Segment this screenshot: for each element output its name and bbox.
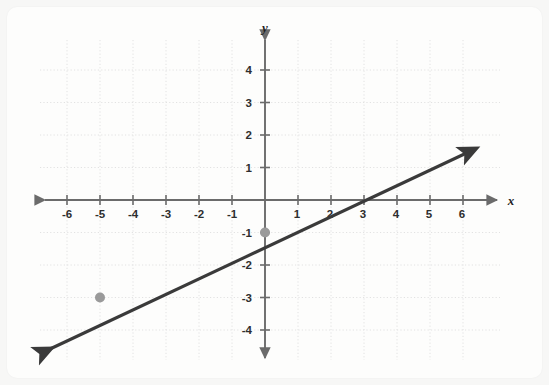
y-tick-label: 2	[246, 129, 252, 141]
y-tick-label: -3	[242, 292, 252, 304]
graph-svg: -6 -5 -4 -3 -2 -1 1 2 3 4 5 6 4 3 2 1 -1…	[0, 0, 549, 385]
x-tick-label: 4	[393, 208, 400, 220]
y-tick-label: 3	[246, 97, 252, 109]
coordinate-plane: -6 -5 -4 -3 -2 -1 1 2 3 4 5 6 4 3 2 1 -1…	[0, 0, 549, 385]
data-point-marker	[260, 228, 270, 238]
y-tick-label: -4	[242, 324, 253, 336]
x-tick-labels: -6 -5 -4 -3 -2 -1 1 2 3 4 5 6	[62, 208, 465, 220]
y-tick-label: 4	[246, 64, 253, 76]
x-tick-label: -1	[227, 208, 238, 220]
data-point-marker	[95, 293, 105, 303]
y-tick-label: -1	[242, 227, 253, 239]
x-tick-label: -4	[128, 208, 139, 220]
x-tick-label: -5	[95, 208, 106, 220]
x-tick-label: -2	[194, 208, 204, 220]
x-tick-label: 3	[360, 208, 366, 220]
x-tick-label: -3	[161, 208, 171, 220]
x-tick-label: 6	[459, 208, 465, 220]
y-tick-label: 1	[246, 162, 253, 174]
y-tick-label: -2	[242, 259, 252, 271]
x-tick-label: 1	[294, 208, 301, 220]
plotted-line	[50, 149, 475, 349]
x-tick-label: 5	[426, 208, 433, 220]
x-axis-label: x	[507, 193, 515, 208]
graph-page: -6 -5 -4 -3 -2 -1 1 2 3 4 5 6 4 3 2 1 -1…	[0, 0, 549, 385]
x-tick-label: -6	[62, 208, 72, 220]
y-axis-label: y	[260, 20, 268, 35]
